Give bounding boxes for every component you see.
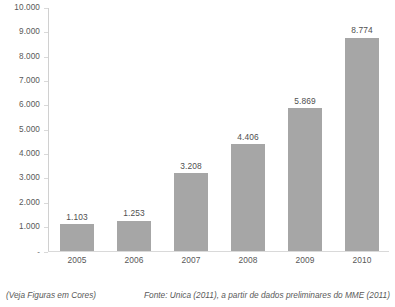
plot-wrapper: 10.000 9.000 8.000 7.000 6.000 5.000 4.0…	[0, 0, 395, 285]
x-axis-tick-label-2006: 2006	[106, 256, 162, 264]
x-axis-tick-label-2008: 2008	[220, 256, 276, 264]
figure-footer: (Veja Figuras em Cores) Fonte: Unica (20…	[0, 288, 395, 307]
x-axis: 2005 2006 2007 2008 2009 2010	[49, 256, 389, 272]
y-axis-tick-label: 4.000	[19, 150, 40, 158]
y-axis-tick-label: 9.000	[19, 28, 40, 36]
bar-2009[interactable]	[288, 108, 322, 251]
y-axis-tickmark	[44, 252, 48, 253]
y-axis-tickmark	[44, 105, 48, 106]
bar-slot: 4.406	[220, 8, 276, 251]
bar-value-label: 5.869	[277, 97, 333, 105]
y-axis-tickmark	[44, 8, 48, 9]
y-axis-tick-label: 5.000	[19, 126, 40, 134]
x-axis-baseline	[48, 251, 389, 252]
x-axis-tick-label-2009: 2009	[277, 256, 333, 264]
bar-value-label: 4.406	[220, 133, 276, 141]
bar-2007[interactable]	[174, 173, 208, 251]
bar-slot: 5.869	[277, 8, 333, 251]
figure-color-note: (Veja Figuras em Cores)	[6, 290, 96, 300]
y-axis-tick-label: 3.000	[19, 174, 40, 182]
y-axis-tick-label: 6.000	[19, 101, 40, 109]
y-axis-tick-label: -	[37, 248, 40, 256]
bar-slot: 1.103	[49, 8, 105, 251]
y-axis-tickmark	[44, 203, 48, 204]
y-axis-tick-label: 8.000	[19, 53, 40, 61]
y-axis-tick-label: 7.000	[19, 77, 40, 85]
bar-2010[interactable]	[345, 38, 379, 251]
y-axis-tickmark	[44, 227, 48, 228]
y-axis-tickmark	[44, 154, 48, 155]
bar-2006[interactable]	[117, 221, 151, 251]
y-axis-tickmark	[44, 81, 48, 82]
bar-value-label: 8.774	[334, 26, 390, 34]
bar-value-label: 1.103	[49, 213, 105, 221]
y-axis-tick-label: 2.000	[19, 199, 40, 207]
bar-value-label: 1.253	[106, 209, 162, 217]
y-axis-tick-label: 10.000	[14, 4, 40, 12]
bar-slot: 8.774	[334, 8, 390, 251]
bar-slot: 1.253	[106, 8, 162, 251]
plot-area: 1.103 1.253 3.208 4.406 5.869 8.774	[49, 8, 389, 251]
bar-2008[interactable]	[231, 144, 265, 251]
bar-slot: 3.208	[163, 8, 219, 251]
x-axis-tick-label-2007: 2007	[163, 256, 219, 264]
y-axis-tickmark	[44, 178, 48, 179]
bar-2005[interactable]	[60, 224, 94, 251]
y-axis-tickmark	[44, 57, 48, 58]
bar-value-label: 3.208	[163, 162, 219, 170]
y-axis-tickmark	[44, 32, 48, 33]
x-axis-tick-label-2010: 2010	[334, 256, 390, 264]
y-axis-tickmark	[44, 130, 48, 131]
bar-chart-figure: 10.000 9.000 8.000 7.000 6.000 5.000 4.0…	[0, 0, 395, 307]
y-axis: 10.000 9.000 8.000 7.000 6.000 5.000 4.0…	[0, 0, 48, 252]
figure-source-note: Fonte: Unica (2011), a partir de dados p…	[144, 290, 390, 300]
x-axis-tick-label-2005: 2005	[49, 256, 105, 264]
y-axis-tick-label: 1.000	[19, 223, 40, 231]
